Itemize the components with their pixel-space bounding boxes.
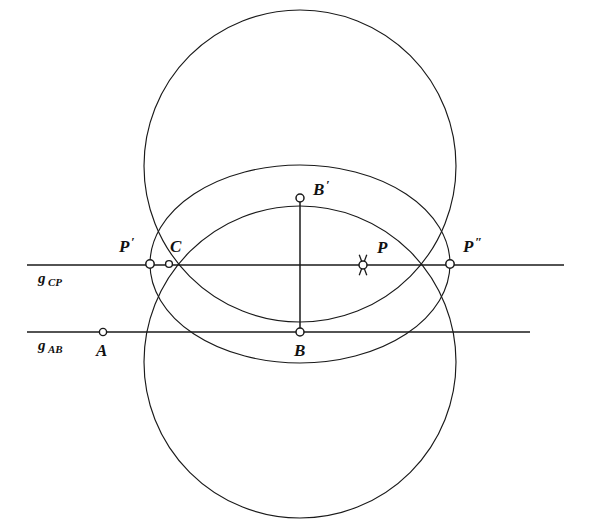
- point-label-b: B: [293, 341, 305, 360]
- point-marker-a[interactable]: [99, 328, 106, 335]
- point-marker-c[interactable]: [166, 261, 173, 268]
- point-prime-b-prime: ′: [326, 177, 330, 192]
- point-marker-p-prime[interactable]: [146, 260, 154, 268]
- point-marker-b[interactable]: [296, 328, 304, 336]
- line-label-sub-g_ab: AB: [47, 343, 63, 355]
- point-marker-b-prime[interactable]: [296, 194, 304, 202]
- point-prime-p-double-prime: ″: [475, 234, 482, 249]
- line-labels-group: gCPgAB: [37, 270, 63, 355]
- point-marker-p[interactable]: [359, 261, 367, 269]
- geometry-figure: P′CPP″B′BA gCPgAB: [0, 0, 593, 524]
- line-label-sub-g_cp: CP: [48, 276, 62, 288]
- diagram-canvas: P′CPP″B′BA gCPgAB: [0, 0, 593, 524]
- point-label-p: P: [376, 238, 388, 257]
- point-label-p-double-prime: P: [462, 237, 474, 256]
- point-label-c: C: [170, 237, 182, 256]
- point-label-p-prime: P: [118, 237, 130, 256]
- point-prime-p-prime: ′: [131, 234, 135, 249]
- point-marker-p-double-prime[interactable]: [446, 260, 454, 268]
- line-label-base-g_ab: g: [37, 337, 46, 353]
- point-label-b-prime: B: [312, 180, 324, 199]
- line-label-base-g_cp: g: [37, 270, 46, 286]
- point-label-a: A: [95, 341, 107, 360]
